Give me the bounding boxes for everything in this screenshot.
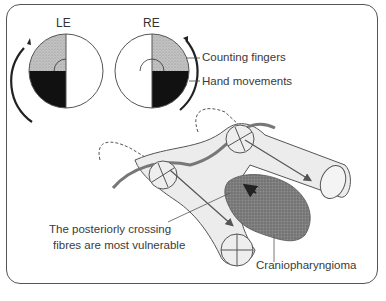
rotation-arrow-icon xyxy=(11,48,32,122)
hand-movements-label: Hand movements xyxy=(202,76,292,88)
craniopharyngioma-label: Craniopharyngioma xyxy=(256,260,356,272)
counting-fingers-label: Counting fingers xyxy=(202,52,286,64)
vulnerable-fibres-label-line2: fibres are most vulnerable xyxy=(53,240,185,252)
vulnerable-fibres-label-line1: The posteriorly crossing xyxy=(49,224,171,236)
left-eye-label: LE xyxy=(56,17,71,29)
right-eye-label: RE xyxy=(143,17,160,29)
chiasm-diagram xyxy=(0,0,386,301)
left-eye-field xyxy=(11,34,103,122)
right-eye-field xyxy=(115,34,200,110)
